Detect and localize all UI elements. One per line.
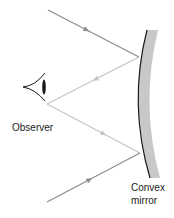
eye-lens	[42, 80, 46, 95]
mirror-fill	[138, 30, 160, 178]
reflected-ray-bottom	[47, 104, 140, 153]
incident-ray-bottom	[47, 153, 140, 202]
mirror-label-line1: Convex	[131, 181, 165, 194]
arrow-icon	[91, 76, 99, 83]
incident-ray-top	[48, 10, 139, 57]
reflected-ray-top	[47, 57, 139, 104]
arrow-icon	[100, 130, 108, 137]
observer-label: Observer	[12, 122, 53, 134]
arrow-icon	[86, 176, 94, 183]
mirror-label-line2: mirror	[131, 194, 165, 207]
convex-mirror-label: Convex mirror	[131, 181, 165, 207]
convex-mirror	[138, 30, 160, 178]
observer-eye-icon	[23, 73, 46, 101]
arrow-icon	[83, 26, 91, 33]
